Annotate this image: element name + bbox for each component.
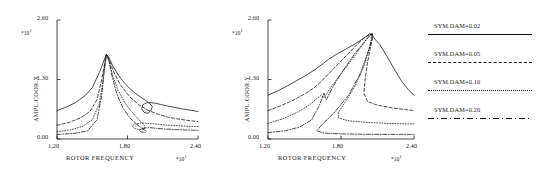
x-axis-exponent: *101 [176, 154, 187, 162]
y-tick-label-bottom: 0.00 [37, 133, 48, 140]
y-axis-title: AMPL.COOR.X [32, 76, 39, 122]
legend-swatch-solid-line [428, 34, 532, 35]
curve-sym-dam-002 [57, 54, 198, 113]
x-axis-exponent: *101 [391, 154, 402, 162]
legend: SYM.DAM=0.02 SYM.DAM=0.05 SYM.DAM=0.10 S… [426, 22, 543, 134]
curve-sym-dam-005 [268, 34, 414, 111]
x-axis-title: ROTOR FREQUENCY [278, 154, 346, 161]
curve-sym-dam-010 [268, 34, 414, 124]
legend-swatch-dotted-line [428, 90, 532, 91]
x-tick-label-left: 1.20 [259, 142, 270, 149]
chart-panel-amplitude-x: 2.60 1.30 0.00 *101 1.20 1.80 2.40 *101 … [0, 0, 210, 172]
y-axis-exponent: *101 [232, 28, 243, 36]
legend-label: SYM.DAM=0.05 [434, 50, 480, 57]
x-exponent-power: 1 [184, 154, 186, 159]
legend-label: SYM.DAM=0.20 [434, 106, 480, 113]
y-tick-label-top: 2.60 [248, 14, 259, 21]
x-tick-label-right: 2.40 [406, 142, 417, 149]
x-tick-label-left: 1.20 [48, 142, 59, 149]
y-exponent-power: 1 [29, 28, 31, 33]
curve-sym-dam-010 [57, 54, 198, 131]
y-axis-exponent: *101 [21, 28, 32, 36]
legend-label: SYM.DAM=0.02 [434, 22, 480, 29]
legend-swatch-dashdot-line [428, 118, 532, 119]
y-exponent-power: 1 [240, 28, 242, 33]
chart-panel-amplitude-y: 2.60 1.30 0.00 *101 1.20 1.80 2.40 *101 … [210, 0, 425, 172]
curve-sym-dam-002 [268, 34, 414, 96]
legend-swatch-dashed-line [428, 62, 532, 63]
figure-root: 2.60 1.30 0.00 *101 1.20 1.80 2.40 *101 … [0, 0, 543, 172]
legend-label: SYM.DAM=0.10 [434, 78, 480, 85]
legend-entry-sym-dam-005: SYM.DAM=0.05 [426, 50, 538, 76]
legend-entry-sym-dam-002: SYM.DAM=0.02 [426, 22, 538, 48]
x-tick-label-mid: 1.80 [332, 142, 343, 149]
x-tick-label-right: 2.40 [190, 142, 201, 149]
y-axis-title: AMPL.COOR.Y [243, 76, 250, 122]
x-tick-label-mid: 1.80 [119, 142, 130, 149]
x-exponent-power: 1 [399, 154, 401, 159]
x-axis-title: ROTOR FREQUENCY [66, 154, 134, 161]
legend-entry-sym-dam-010: SYM.DAM=0.10 [426, 78, 538, 104]
legend-entry-sym-dam-020: SYM.DAM=0.20 [426, 106, 538, 132]
y-tick-label-bottom: 0.00 [248, 133, 259, 140]
y-tick-label-top: 2.60 [37, 14, 48, 21]
curve-sym-dam-020 [268, 34, 414, 135]
